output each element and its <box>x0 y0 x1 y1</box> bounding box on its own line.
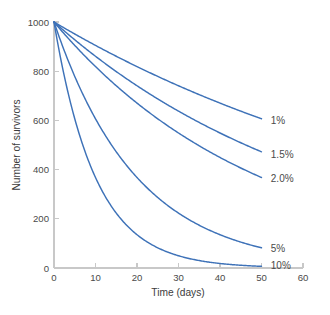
y-tick-label-600: 600 <box>33 115 49 126</box>
series-label-20: 2.0% <box>271 173 294 184</box>
x-tick-label-30: 30 <box>173 272 184 283</box>
y-axis-title: Number of survivors <box>11 99 22 190</box>
chart-figure: 0 200 400 600 800 1000 0 10 20 30 40 50 … <box>0 0 330 315</box>
x-axis-ticks <box>54 263 303 268</box>
x-tick-label-0: 0 <box>51 272 56 283</box>
curve-15 <box>54 22 262 152</box>
series-label-5: 5% <box>271 243 286 254</box>
y-tick-label-1000: 1000 <box>28 17 49 28</box>
data-curves <box>54 22 262 266</box>
y-axis-tick-labels: 0 200 400 600 800 1000 <box>28 17 49 274</box>
x-tick-label-50: 50 <box>256 272 267 283</box>
curve-1 <box>54 22 262 119</box>
series-annotations: 1%1.5%2.0%5%10% <box>271 115 294 271</box>
y-tick-label-400: 400 <box>33 164 49 175</box>
y-tick-label-0: 0 <box>44 263 49 274</box>
x-axis-tick-labels: 0 10 20 30 40 50 60 <box>51 272 308 283</box>
x-tick-label-40: 40 <box>215 272 226 283</box>
series-label-15: 1.5% <box>271 149 294 160</box>
figure-caption-partial <box>0 301 330 315</box>
survivor-decay-chart: 0 200 400 600 800 1000 0 10 20 30 40 50 … <box>0 0 330 315</box>
series-label-1: 1% <box>271 115 286 126</box>
curve-10 <box>54 22 262 266</box>
x-tick-label-60: 60 <box>298 272 309 283</box>
x-axis-title: Time (days) <box>151 287 204 298</box>
y-tick-label-200: 200 <box>33 213 49 224</box>
x-tick-label-10: 10 <box>90 272 101 283</box>
y-axis-ticks <box>54 22 59 268</box>
series-label-10: 10% <box>271 260 291 271</box>
y-tick-label-800: 800 <box>33 66 49 77</box>
x-tick-label-20: 20 <box>132 272 143 283</box>
